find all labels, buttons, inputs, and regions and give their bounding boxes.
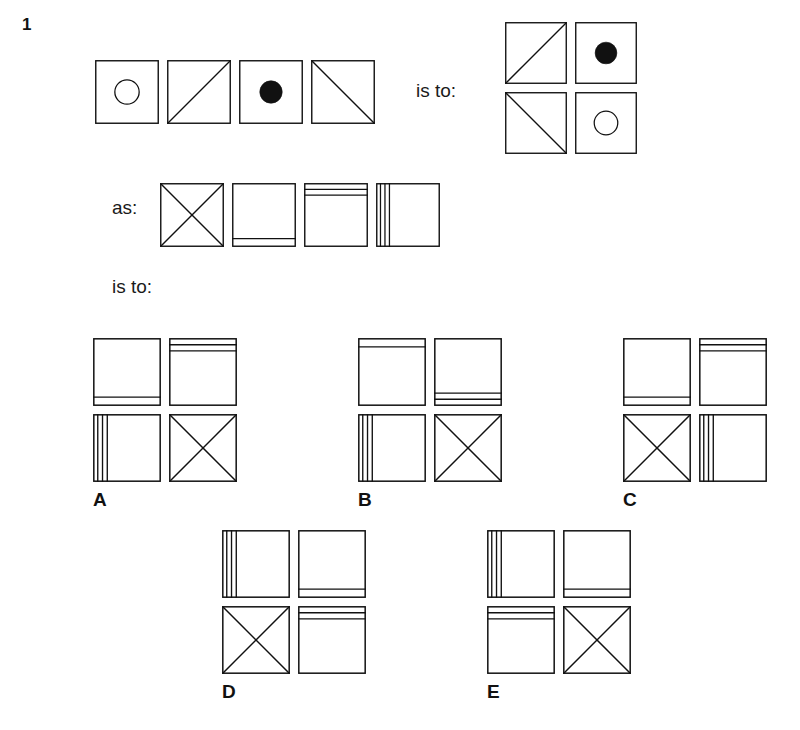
term-b-r2c1-diagonal-down — [505, 92, 567, 154]
option-b-r1c2-two-lines-bottom — [434, 338, 502, 406]
option-b-r2c1-three-lines-left — [358, 414, 426, 482]
option-c-r2c2-three-lines-left — [699, 414, 767, 482]
analogy-term-c — [160, 183, 440, 247]
term-c-cell-3-two-lines-top — [304, 183, 368, 247]
option-d-r1c1-three-lines-left — [222, 530, 290, 598]
answer-option-a[interactable] — [93, 338, 237, 482]
term-c-cell-2-one-line-bottom — [232, 183, 296, 247]
answer-option-c[interactable] — [623, 338, 767, 482]
analogy-term-a — [95, 60, 375, 124]
relation-label-is-to-1: is to: — [416, 81, 456, 100]
term-c-cell-1-cross — [160, 183, 224, 247]
term-a-cell-2-diagonal-up — [167, 60, 231, 124]
option-c-r1c1-one-line-bottom — [623, 338, 691, 406]
option-b-r2c2-cross — [434, 414, 502, 482]
option-a-r2c2-cross — [169, 414, 237, 482]
term-a-cell-1-open-circle — [95, 60, 159, 124]
option-c-r1c2-two-lines-top — [699, 338, 767, 406]
answer-option-label-c[interactable]: C — [623, 490, 637, 509]
option-d-r2c2-two-lines-top — [298, 606, 366, 674]
relation-label-as: as: — [112, 198, 137, 217]
term-b-r1c2-filled-circle — [575, 22, 637, 84]
answer-option-label-b[interactable]: B — [358, 490, 372, 509]
option-a-r1c1-one-line-bottom — [93, 338, 161, 406]
question-number: 1 — [22, 16, 31, 33]
term-a-cell-4-diagonal-down — [311, 60, 375, 124]
term-c-cell-4-three-lines-left — [376, 183, 440, 247]
option-e-r2c2-cross — [563, 606, 631, 674]
answer-option-b[interactable] — [358, 338, 502, 482]
relation-label-is-to-2: is to: — [112, 277, 152, 296]
term-a-cell-3-filled-circle — [239, 60, 303, 124]
option-e-r2c1-two-lines-top — [487, 606, 555, 674]
option-d-r1c2-one-line-bottom — [298, 530, 366, 598]
term-b-r2c2-open-circle — [575, 92, 637, 154]
answer-option-d[interactable] — [222, 530, 366, 674]
answer-option-e[interactable] — [487, 530, 631, 674]
option-e-r1c1-three-lines-left — [487, 530, 555, 598]
answer-option-label-a[interactable]: A — [93, 490, 107, 509]
answer-option-label-d[interactable]: D — [222, 682, 236, 701]
option-d-r2c1-cross — [222, 606, 290, 674]
option-e-r1c2-one-line-bottom — [563, 530, 631, 598]
option-c-r2c1-cross — [623, 414, 691, 482]
option-a-r1c2-two-lines-top — [169, 338, 237, 406]
worksheet-canvas: 1 is to: as: is to: ABCDE — [0, 0, 800, 730]
term-b-r1c1-diagonal-up — [505, 22, 567, 84]
answer-option-label-e[interactable]: E — [487, 682, 500, 701]
analogy-term-b — [505, 22, 637, 154]
option-b-r1c1-one-line-top — [358, 338, 426, 406]
option-a-r2c1-three-lines-left — [93, 414, 161, 482]
